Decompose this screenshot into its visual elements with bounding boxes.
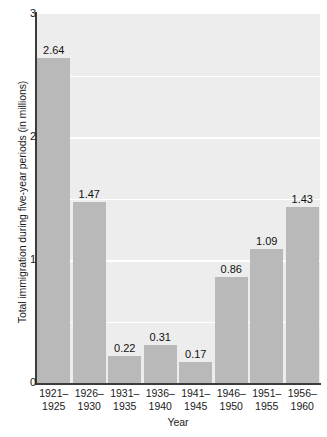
y-tick-label: 3 — [16, 7, 36, 19]
bar[interactable] — [250, 249, 283, 383]
x-tick-label: 1941–1945 — [178, 387, 214, 412]
y-tick-label: 0 — [16, 376, 36, 388]
bar[interactable] — [73, 202, 106, 383]
x-tick-label-line: 1940 — [143, 400, 179, 413]
x-tick-label-line: 1926– — [72, 387, 108, 400]
bars: 2.641.470.220.310.170.861.091.43 — [36, 14, 320, 383]
x-tick-label: 1946–1950 — [214, 387, 250, 412]
bar-slot: 1.47 — [72, 14, 108, 383]
x-tick-label-line: 1956– — [285, 387, 321, 400]
bar-value-label: 0.17 — [178, 348, 214, 360]
bar[interactable] — [37, 58, 70, 383]
bar-slot: 0.86 — [214, 14, 250, 383]
x-tick-label-line: 1955 — [249, 400, 285, 413]
x-tick-labels: 1921–19251926–19301931–19351936–19401941… — [36, 387, 320, 417]
x-tick-label-line: 1946– — [214, 387, 250, 400]
y-tick-label: 1 — [16, 253, 36, 265]
x-tick-label-line: 1941– — [178, 387, 214, 400]
x-tick-label-line: 1945 — [178, 400, 214, 413]
x-tick-label-line: 1931– — [107, 387, 143, 400]
bar[interactable] — [286, 207, 319, 383]
x-tick-label-line: 1936– — [143, 387, 179, 400]
bar-slot: 1.09 — [249, 14, 285, 383]
bar-value-label: 0.86 — [214, 263, 250, 275]
x-tick-label-line: 1951– — [249, 387, 285, 400]
x-tick-label: 1956–1960 — [285, 387, 321, 412]
bar[interactable] — [179, 362, 212, 383]
x-tick-label-line: 1930 — [72, 400, 108, 413]
bar-value-label: 1.09 — [249, 235, 285, 247]
bar-slot: 1.43 — [285, 14, 321, 383]
x-tick-label: 1931–1935 — [107, 387, 143, 412]
bar-slot: 0.31 — [143, 14, 179, 383]
x-tick-label: 1921–1925 — [36, 387, 72, 412]
bar[interactable] — [144, 345, 177, 383]
bar-chart: Total immigration during five-year perio… — [0, 0, 327, 437]
bar-value-label: 2.64 — [36, 44, 72, 56]
x-axis-line — [35, 383, 321, 385]
x-tick-label-line: 1925 — [36, 400, 72, 413]
bar-slot: 0.22 — [107, 14, 143, 383]
x-tick-label-line: 1935 — [107, 400, 143, 413]
y-axis-title: Total immigration during five-year perio… — [16, 14, 28, 390]
bar-value-label: 0.22 — [107, 342, 143, 354]
x-axis-title: Year — [36, 416, 320, 428]
bar[interactable] — [108, 356, 141, 383]
bar-value-label: 1.47 — [72, 188, 108, 200]
bar-value-label: 0.31 — [143, 331, 179, 343]
bar[interactable] — [215, 277, 248, 383]
x-tick-label-line: 1950 — [214, 400, 250, 413]
x-tick-label: 1936–1940 — [143, 387, 179, 412]
bar-value-label: 1.43 — [285, 193, 321, 205]
x-tick-label-line: 1921– — [36, 387, 72, 400]
x-tick-label: 1951–1955 — [249, 387, 285, 412]
x-tick-label-line: 1960 — [285, 400, 321, 413]
bar-slot: 2.64 — [36, 14, 72, 383]
bar-slot: 0.17 — [178, 14, 214, 383]
y-tick-label: 2 — [16, 130, 36, 142]
x-tick-label: 1926–1930 — [72, 387, 108, 412]
